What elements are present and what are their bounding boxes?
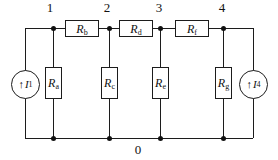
current-source-i4: ↑I4	[239, 70, 268, 99]
resistor-rg-label: Rg	[218, 77, 229, 89]
resistor-rb-label: Rb	[76, 23, 87, 35]
node-dot-4-top	[221, 26, 226, 31]
resistor-rc: Rc	[101, 67, 118, 99]
resistor-rc-label: Rc	[104, 77, 115, 89]
resistor-rf-label: Rf	[187, 23, 197, 35]
circuit-diagram: Rb Rd Rf Ra Rc Re Rg ↑I1 ↑I4 1 2 3 4 0	[0, 0, 278, 160]
node-label-3: 3	[151, 1, 167, 15]
up-arrow-icon: ↑	[246, 79, 252, 90]
node-dot-2-top	[107, 26, 112, 31]
resistor-rg: Rg	[215, 67, 232, 99]
node-dot-2-bottom	[107, 136, 112, 141]
node-label-2: 2	[99, 1, 115, 15]
current-source-i1: ↑I1	[11, 70, 40, 99]
resistor-rd-label: Rd	[130, 23, 141, 35]
resistor-rd: Rd	[119, 20, 153, 37]
bottom-rail-wire	[25, 138, 253, 139]
resistor-rb: Rb	[65, 20, 99, 37]
up-arrow-icon: ↑	[18, 79, 24, 90]
node-dot-1-top	[51, 26, 56, 31]
resistor-re: Re	[152, 67, 169, 99]
resistor-rf: Rf	[175, 20, 209, 37]
node-label-1: 1	[42, 1, 58, 15]
node-dot-1-bottom	[51, 136, 56, 141]
node-dot-4-bottom	[221, 136, 226, 141]
resistor-ra-label: Ra	[48, 77, 59, 89]
node-label-0: 0	[130, 143, 146, 157]
node-label-4: 4	[214, 1, 230, 15]
resistor-re-label: Re	[155, 77, 166, 89]
node-dot-3-top	[158, 26, 163, 31]
node-dot-3-bottom	[158, 136, 163, 141]
resistor-ra: Ra	[45, 67, 62, 99]
